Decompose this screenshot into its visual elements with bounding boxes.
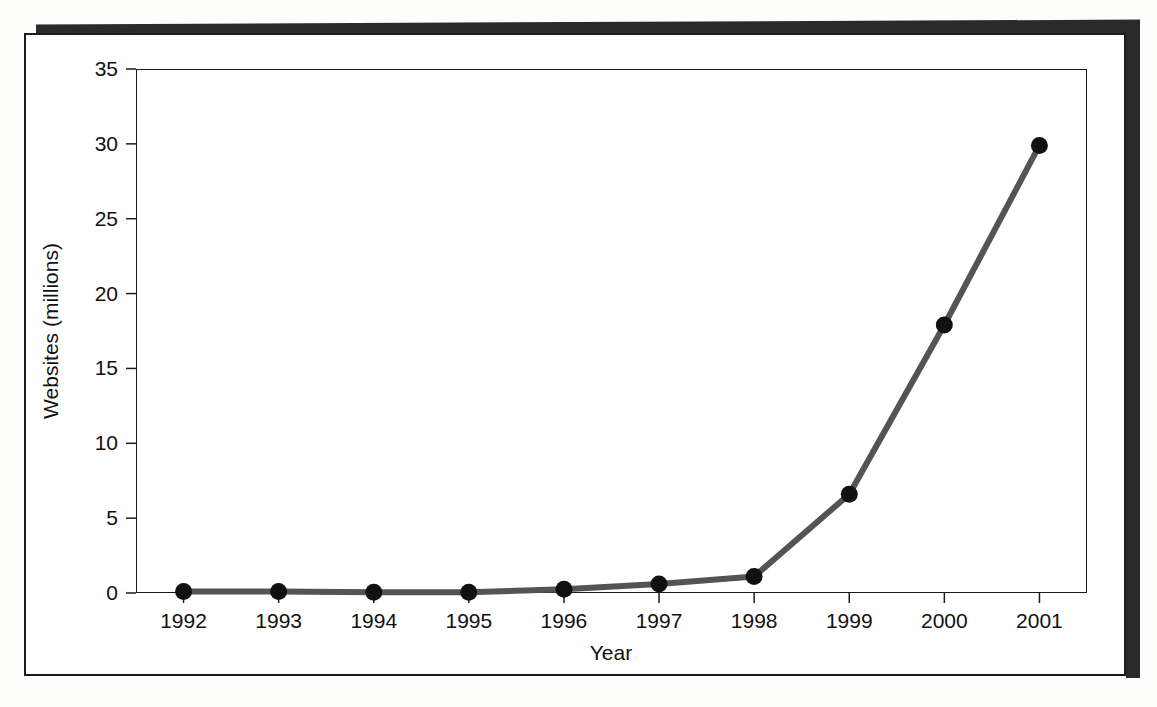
data-point-1998 xyxy=(746,568,763,585)
y-tick-label: 25 xyxy=(95,207,118,230)
x-tick-label: 1993 xyxy=(255,609,302,632)
y-tick-label: 0 xyxy=(106,581,118,604)
data-point-1992 xyxy=(175,583,192,600)
x-tick-label: 2000 xyxy=(921,609,968,632)
x-tick-label: 1999 xyxy=(826,609,873,632)
x-tick-label: 1998 xyxy=(731,609,778,632)
data-point-1996 xyxy=(556,581,573,598)
y-tick-label: 5 xyxy=(106,506,118,529)
figure-frame: 05101520253035 1992199319941995199619971… xyxy=(24,33,1126,676)
data-point-2000 xyxy=(936,317,953,334)
data-point-1994 xyxy=(365,584,382,601)
x-axis-title: Year xyxy=(590,641,632,664)
data-point-1993 xyxy=(270,583,287,600)
x-tick-label: 2001 xyxy=(1016,609,1063,632)
x-tick-label: 1996 xyxy=(541,609,588,632)
x-tick-label: 1992 xyxy=(160,609,207,632)
y-tick-label: 20 xyxy=(95,282,118,305)
y-tick-label: 10 xyxy=(95,431,118,454)
y-tick-label: 15 xyxy=(95,356,118,379)
series-line-websites xyxy=(184,145,1040,592)
data-point-1995 xyxy=(460,584,477,601)
y-axis-title: Websites (millions) xyxy=(39,243,62,419)
x-tick-label: 1997 xyxy=(636,609,683,632)
x-axis-tick-labels: 1992199319941995199619971998199920002001 xyxy=(160,609,1063,632)
data-point-1999 xyxy=(841,486,858,503)
scanned-page: 05101520253035 1992199319941995199619971… xyxy=(0,0,1157,707)
figure-right-shadow xyxy=(1126,28,1140,678)
line-chart: 05101520253035 1992199319941995199619971… xyxy=(26,35,1128,678)
x-tick-label: 1994 xyxy=(350,609,397,632)
y-axis-tick-labels: 05101520253035 xyxy=(95,57,118,604)
y-axis-ticks xyxy=(126,69,136,593)
data-point-1997 xyxy=(651,576,668,593)
data-point-2001 xyxy=(1031,137,1048,154)
y-tick-label: 35 xyxy=(95,57,118,80)
y-tick-label: 30 xyxy=(95,132,118,155)
x-tick-label: 1995 xyxy=(445,609,492,632)
